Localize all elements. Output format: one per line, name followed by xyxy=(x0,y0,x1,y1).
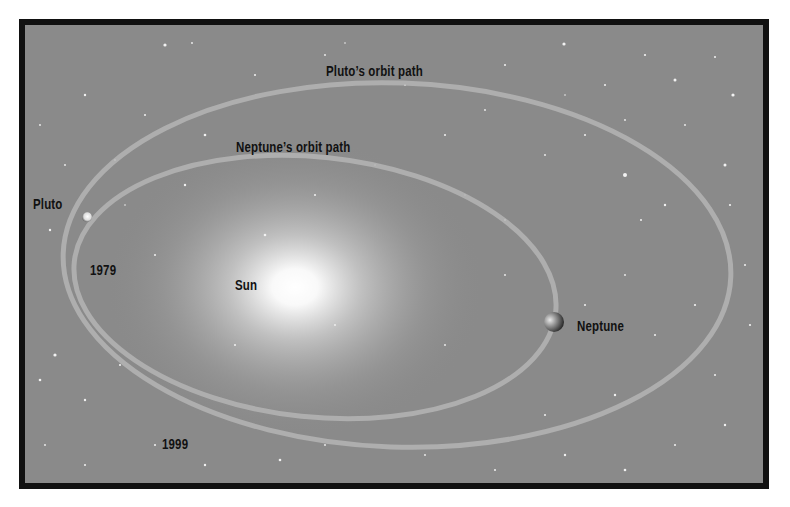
neptune-orbit-label: Neptune’s orbit path xyxy=(236,139,350,155)
neptune-planet xyxy=(544,312,564,332)
space-background xyxy=(25,25,763,483)
pluto-planet xyxy=(82,212,92,222)
diagram-frame: Pluto’s orbit path Neptune’s orbit path … xyxy=(19,19,769,489)
year-1999-label: 1999 xyxy=(162,436,188,452)
pluto-orbit-label: Pluto’s orbit path xyxy=(326,63,423,79)
pluto-label: Pluto xyxy=(33,196,63,212)
neptune-label: Neptune xyxy=(577,318,624,334)
year-1979-label: 1979 xyxy=(90,262,116,278)
sun-label: Sun xyxy=(235,277,257,293)
